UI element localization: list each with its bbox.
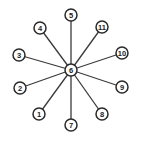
node-label: 9 (120, 83, 124, 92)
node-label: 6 (69, 66, 73, 75)
edge-6-2 (20, 70, 71, 88)
node-label: 5 (69, 11, 73, 20)
node-1: 1 (33, 108, 45, 120)
node-label: 7 (69, 121, 73, 130)
node-label: 11 (98, 23, 106, 32)
center-node: 6 (65, 64, 77, 76)
star-graph-diagram: 1234578910116 (0, 0, 142, 144)
node-10: 10 (116, 47, 128, 59)
node-4: 4 (34, 22, 46, 34)
node-8: 8 (96, 108, 108, 120)
edge-6-10 (71, 53, 122, 70)
node-label: 10 (118, 49, 126, 58)
edge-6-11 (71, 27, 102, 70)
node-label: 3 (17, 51, 21, 60)
node-label: 1 (37, 110, 41, 119)
edge-6-3 (19, 55, 71, 70)
edge-6-8 (71, 70, 102, 114)
node-label: 8 (100, 110, 104, 119)
node-5: 5 (65, 9, 77, 21)
node-2: 2 (14, 82, 26, 94)
node-3: 3 (13, 49, 25, 61)
node-label: 2 (18, 84, 22, 93)
edge-6-9 (71, 70, 122, 87)
edge-6-4 (40, 28, 71, 70)
node-9: 9 (116, 81, 128, 93)
edge-6-1 (39, 70, 71, 114)
node-11: 11 (96, 21, 108, 33)
node-7: 7 (65, 119, 77, 131)
